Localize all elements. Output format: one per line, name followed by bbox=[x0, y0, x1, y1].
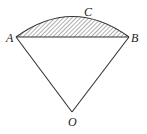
label-o: O bbox=[68, 115, 77, 129]
label-c: C bbox=[84, 5, 93, 19]
sector-diagram: A B C O bbox=[0, 0, 147, 134]
label-a: A bbox=[5, 31, 14, 45]
label-b: B bbox=[131, 31, 139, 45]
radius-ob bbox=[72, 37, 129, 112]
radius-oa bbox=[16, 37, 72, 112]
